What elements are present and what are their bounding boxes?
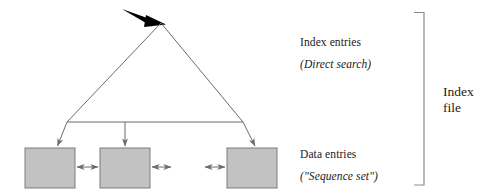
index-triangle bbox=[67, 23, 243, 122]
data-entry-box-2 bbox=[100, 148, 150, 188]
leaf-pointer-arrow-left bbox=[58, 122, 68, 146]
label-sequence-set: ("Sequence set") bbox=[300, 170, 378, 182]
label-index-file-line2: file bbox=[443, 100, 474, 116]
label-data-entries: Data entries bbox=[300, 148, 356, 160]
data-entry-box-3 bbox=[227, 148, 277, 188]
label-index-file-line1: Index bbox=[443, 84, 474, 100]
label-direct-search: (Direct search) bbox=[300, 58, 371, 70]
leaf-pointer-arrow-right bbox=[243, 122, 255, 146]
diagram-canvas bbox=[0, 0, 487, 193]
index-file-bracket bbox=[414, 13, 424, 186]
figure-root: Index entries (Direct search) Data entri… bbox=[0, 0, 487, 193]
data-entry-box-1 bbox=[25, 148, 75, 188]
label-index-file: Index file bbox=[443, 84, 474, 117]
label-index-entries: Index entries bbox=[300, 36, 361, 48]
